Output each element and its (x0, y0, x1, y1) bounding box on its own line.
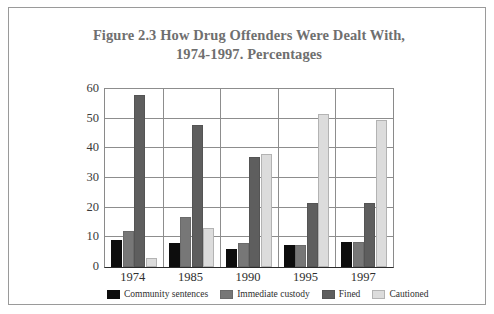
y-axis-tick-label: 40 (71, 140, 99, 155)
legend-item[interactable]: Community sentences (107, 289, 208, 299)
legend-swatch-icon (372, 290, 385, 299)
legend-item[interactable]: Cautioned (372, 289, 428, 299)
bar-group (111, 89, 157, 267)
x-axis-tick-label: 1990 (218, 270, 278, 285)
bar[interactable] (146, 258, 157, 267)
legend-label: Fined (339, 289, 361, 299)
figure-page: Figure 2.3 How Drug Offenders Were Dealt… (0, 0, 494, 314)
x-axis-tick-label: 1974 (103, 270, 163, 285)
x-axis-tick-label: 1995 (276, 270, 336, 285)
y-axis-tick-label: 30 (71, 170, 99, 185)
bar[interactable] (376, 120, 387, 267)
legend-item[interactable]: Fined (322, 289, 361, 299)
legend-item[interactable]: Immediate custody (220, 289, 310, 299)
bar[interactable] (249, 157, 260, 267)
bar-group (169, 89, 215, 267)
bar[interactable] (261, 154, 272, 267)
chart-legend: Community sentencesImmediate custodyFine… (107, 289, 428, 299)
chart-title-line-1: Figure 2.3 How Drug Offenders Were Dealt… (93, 27, 405, 43)
chart-title: Figure 2.3 How Drug Offenders Were Dealt… (49, 26, 449, 64)
bar[interactable] (192, 125, 203, 267)
bar[interactable] (123, 231, 134, 267)
y-axis-tick-label: 20 (71, 199, 99, 214)
bar-group (284, 89, 330, 267)
bar[interactable] (295, 245, 306, 267)
bar[interactable] (203, 228, 214, 267)
bar[interactable] (226, 249, 237, 267)
bar-group (341, 89, 387, 267)
bar-group (226, 89, 272, 267)
y-axis-tick-labels: 0102030405060 (67, 88, 99, 266)
x-axis-tick-label: 1997 (333, 270, 393, 285)
bar[interactable] (341, 242, 352, 267)
plot-area (104, 88, 394, 268)
bar[interactable] (307, 203, 318, 267)
y-axis-tick-label: 60 (71, 81, 99, 96)
legend-label: Immediate custody (237, 289, 310, 299)
legend-label: Community sentences (124, 289, 208, 299)
bar[interactable] (180, 217, 191, 267)
group-divider (163, 89, 164, 267)
legend-swatch-icon (322, 290, 335, 299)
legend-swatch-icon (107, 290, 120, 299)
bar[interactable] (364, 203, 375, 267)
chart-title-line-2: 1974-1997. Percentages (49, 45, 449, 64)
group-divider (220, 89, 221, 267)
bar[interactable] (111, 240, 122, 267)
y-axis-tick-label: 0 (71, 259, 99, 274)
bar[interactable] (169, 243, 180, 267)
bar[interactable] (318, 114, 329, 267)
bar[interactable] (134, 95, 145, 267)
figure-frame: Figure 2.3 How Drug Offenders Were Dealt… (8, 7, 486, 305)
y-axis-tick-label: 10 (71, 229, 99, 244)
legend-label: Cautioned (389, 289, 428, 299)
bar[interactable] (238, 243, 249, 267)
x-axis-tick-label: 1985 (160, 270, 220, 285)
legend-swatch-icon (220, 290, 233, 299)
bar[interactable] (284, 245, 295, 267)
y-axis-tick-label: 50 (71, 110, 99, 125)
group-divider (335, 89, 336, 267)
group-divider (278, 89, 279, 267)
bar[interactable] (353, 242, 364, 267)
